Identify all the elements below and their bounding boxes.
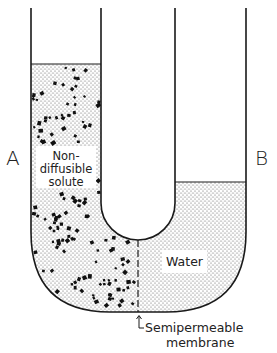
- membrane-label-line-1: Semipermeable: [145, 320, 244, 335]
- solute-label-line-2: diffusible: [40, 162, 92, 176]
- solute-particle: [77, 204, 81, 207]
- solute-particle: [82, 121, 85, 123]
- side-label-a: A: [6, 146, 20, 170]
- solute-particle: [114, 279, 117, 282]
- solute-particle: [112, 298, 114, 300]
- solute-particle: [67, 114, 71, 117]
- solute-particle: [116, 287, 120, 291]
- solute-label-line-3: solute: [48, 175, 83, 189]
- solute-particle: [84, 197, 88, 200]
- solute-particle: [96, 249, 99, 252]
- solute-particle: [77, 140, 80, 143]
- solute-particle: [33, 250, 37, 254]
- solute-particle: [55, 217, 58, 221]
- up-arrow-icon: [137, 316, 145, 329]
- solute-particle: [88, 274, 92, 279]
- u-tube-inner-wall: [101, 8, 175, 240]
- solute-particle: [122, 289, 125, 292]
- solute-particle: [36, 99, 39, 101]
- solute-particle: [67, 235, 70, 238]
- solute-particle: [108, 293, 111, 296]
- solute-particle: [71, 283, 73, 285]
- solute-particle: [112, 236, 116, 240]
- water-label: Water: [166, 254, 204, 269]
- solute-particle: [111, 247, 114, 251]
- solute-particle: [74, 286, 77, 290]
- solute-particle: [44, 116, 48, 119]
- osmosis-u-tube-diagram: Non- diffusible solute Water A B Semiper…: [0, 0, 277, 353]
- solute-particle: [53, 230, 56, 233]
- solute-particle: [97, 191, 101, 194]
- solute-particle: [52, 241, 54, 244]
- solute-particle: [64, 67, 66, 69]
- membrane-label-line-2: membrane: [166, 335, 235, 350]
- solute-particle: [53, 81, 57, 85]
- solute-label-line-1: Non-: [52, 149, 79, 163]
- right-water-fill: [138, 182, 277, 324]
- solute-particle: [42, 270, 45, 273]
- solute-particle: [73, 111, 76, 115]
- solute-particle: [37, 135, 40, 138]
- solute-particle: [85, 214, 89, 218]
- solute-particle: [38, 129, 43, 133]
- solute-particle: [103, 279, 105, 282]
- solute-particle: [104, 239, 107, 242]
- solute-particle: [60, 222, 63, 225]
- solute-particle: [126, 280, 131, 284]
- left-solution-fill: [0, 64, 138, 324]
- side-label-b: B: [255, 146, 268, 170]
